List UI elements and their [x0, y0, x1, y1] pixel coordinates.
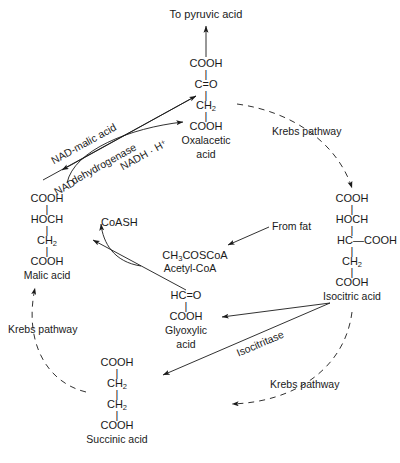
glyoxylic-acid-name-line2: acid [165, 336, 207, 350]
structure-oxalacetic-acid: COOH | C=O | CH2 | COOH Oxalacetic acid [181, 58, 230, 160]
structure-malic-acid: COOH | HOCH | CH2 | COOH Malic acid [24, 193, 71, 281]
malic-row-cooh-bottom: COOH [24, 256, 71, 267]
dashed-arc-krebs-left [32, 288, 86, 392]
label-krebs-pathway-bottom-right: Krebs pathway [270, 378, 339, 390]
glyoxylic-row-cooh: COOH [165, 311, 207, 322]
label-acetyl-coa-name: Acetyl-CoA [164, 262, 217, 274]
malic-acid-name: Malic acid [24, 267, 71, 281]
arrow-from-fat-to-acetyl-coa [228, 227, 269, 245]
label-krebs-pathway-left: Krebs pathway [8, 323, 77, 335]
glyoxylate-cycle-diagram: To pyruvic acid COOH | C=O | CH2 | COOH … [0, 0, 400, 463]
dashed-arc-krebs-top-right [237, 104, 352, 188]
structure-isocitric-acid: COOH | HOCH | HC—COOH | CH2 | COOH Isoci… [307, 193, 397, 302]
oxalacetic-acid-name-line1: Oxalacetic [181, 132, 230, 146]
isocitric-acid-name: Isocitric acid [307, 288, 397, 302]
label-coash: CoASH [101, 216, 138, 229]
oxalacetic-row-cooh-bottom: COOH [181, 121, 230, 132]
succinic-row-cooh-bottom: COOH [86, 420, 147, 431]
structure-glyoxylic-acid: HC=O | COOH Glyoxylic acid [165, 290, 207, 350]
label-krebs-pathway-top-right: Krebs pathway [272, 125, 341, 137]
structure-succinic-acid: COOH | CH2 | CH2 | COOH Succinic acid [86, 357, 147, 445]
label-from-fat: From fat [272, 220, 311, 232]
isocitric-row-cooh-bottom: COOH [307, 277, 397, 288]
label-to-pyruvic-acid: To pyruvic acid [170, 8, 243, 21]
succinic-acid-name: Succinic acid [86, 431, 147, 445]
oxalacetic-acid-name-line2: acid [181, 146, 230, 160]
isocitric-row-hc-cooh: HC—COOH [337, 235, 397, 246]
glyoxylic-acid-name-line1: Glyoxylic [165, 322, 207, 336]
arrow-release-coash [101, 224, 141, 266]
